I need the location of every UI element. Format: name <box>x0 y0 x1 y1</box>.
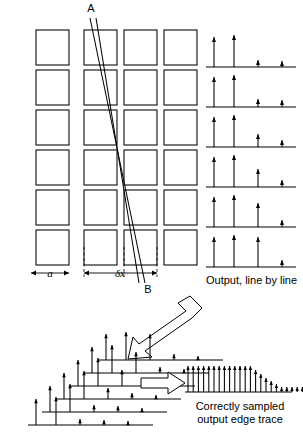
edge-trace-impulse-head <box>186 366 189 370</box>
detector-cell <box>84 70 117 105</box>
detector-cell <box>84 190 117 225</box>
edge-trace-impulse-head <box>192 366 195 370</box>
output-impulse-head <box>232 35 236 40</box>
stack-impulse-head <box>106 388 110 392</box>
stack-impulse-head <box>182 369 186 373</box>
output-impulse-head <box>256 237 260 242</box>
stack-impulse-head <box>76 360 80 364</box>
output-impulse-head <box>212 77 216 82</box>
edge-trace-impulse-head <box>212 366 215 370</box>
stack-impulse-head <box>62 373 66 377</box>
edge-trace-impulse-head <box>270 381 273 385</box>
output-impulse-head <box>280 61 284 66</box>
output-trace-row <box>206 75 296 107</box>
output-impulse-head <box>256 169 260 174</box>
detector-cell <box>164 190 197 225</box>
output-impulse-head <box>232 155 236 160</box>
correctly-sampled-output-edge-trace <box>185 366 303 392</box>
output-impulse-head <box>212 37 216 42</box>
output-impulse-head <box>256 134 260 139</box>
stack-impulse-head <box>120 370 124 374</box>
output-impulse-head <box>232 75 236 80</box>
edge-trace-impulse-head <box>275 384 278 388</box>
stack-impulse-head <box>196 356 200 360</box>
output-trace-row <box>206 35 296 67</box>
stack-impulse-head <box>110 345 114 349</box>
detector-cell <box>36 30 69 65</box>
edge-trace-impulse-head <box>197 366 200 370</box>
pitch-a-label: a <box>47 267 53 279</box>
point-a-label: A <box>87 2 95 14</box>
output-impulse-head <box>212 237 216 242</box>
output-impulse-head <box>280 140 284 145</box>
edge-trace-impulse-head <box>259 374 262 378</box>
stack-impulse-head <box>90 347 94 351</box>
output-impulse-head <box>212 157 216 162</box>
stack-impulse-head <box>78 419 82 423</box>
detector-cell <box>164 230 197 265</box>
stack-impulse-head <box>140 408 144 412</box>
edge-trace-impulse-head <box>290 387 293 391</box>
edge-trace-impulse-head <box>238 366 241 370</box>
stack-impulse-head <box>48 386 52 390</box>
output-trace-row <box>206 155 296 187</box>
stack-impulse-head <box>124 332 128 336</box>
detector-cell <box>124 110 157 145</box>
edge-trace-impulse-head <box>223 366 226 370</box>
edge-trace-impulse-head <box>218 366 221 370</box>
output-impulse-head <box>256 99 260 104</box>
stack-impulse-head <box>130 393 134 397</box>
edge-trace-caption-line1: Correctly sampled <box>196 400 285 412</box>
output-impulse-head <box>256 60 260 65</box>
output-line-by-line-caption: Output, line by line <box>206 274 297 286</box>
edge-trace-impulse-head <box>249 366 252 370</box>
edge-trace-impulse-head <box>207 366 210 370</box>
output-impulse-head <box>212 117 216 122</box>
arrow-stack-to-trace <box>141 372 185 394</box>
detector-cell <box>36 190 69 225</box>
detector-cell <box>84 150 117 185</box>
detector-cell <box>164 70 197 105</box>
stack-impulse-head <box>116 406 120 410</box>
edge-trace-impulse-head <box>296 387 299 391</box>
output-impulse-head <box>280 260 284 265</box>
stack-impulse-head <box>126 421 130 425</box>
edge-trace-impulse-head <box>264 378 267 382</box>
detector-cell <box>124 30 157 65</box>
sampled-edge-trace-figure: a δx A B Output, line by line Correctly … <box>0 0 303 436</box>
edge-trace-impulse-head <box>280 387 283 391</box>
stack-impulse-head <box>34 399 38 403</box>
output-impulse-head <box>212 197 216 202</box>
point-b-label: B <box>144 283 151 295</box>
stack-impulse-head <box>172 354 176 358</box>
stack-impulse-head <box>158 367 162 371</box>
detector-cell <box>124 70 157 105</box>
output-impulse-head <box>280 220 284 225</box>
stack-impulse-head <box>102 420 106 424</box>
detector-cell <box>36 70 69 105</box>
stacked-line-traces <box>28 332 223 425</box>
detector-cell <box>36 150 69 185</box>
output-impulse-head <box>280 100 284 105</box>
detector-cell <box>164 110 197 145</box>
output-trace-row <box>206 235 296 267</box>
edge-trace-caption-line2: output edge trace <box>197 413 283 425</box>
arrow-grid-to-stack <box>128 296 202 359</box>
edge-trace-impulse-head <box>285 387 288 391</box>
figure-root: a δx A B Output, line by line Correctly … <box>0 0 303 436</box>
stack-impulse-head <box>92 405 96 409</box>
edge-trace-impulse-head <box>244 366 247 370</box>
output-trace-row <box>206 195 296 227</box>
detector-cell <box>164 30 197 65</box>
edge-trace-impulse-head <box>233 366 236 370</box>
detector-cell <box>84 230 117 265</box>
stack-trace-row <box>28 397 153 425</box>
stack-impulse-head <box>104 334 108 338</box>
detector-cell <box>36 230 69 265</box>
detector-cell <box>124 150 157 185</box>
output-impulse-head <box>232 115 236 120</box>
stack-impulse-head <box>154 395 158 399</box>
detector-cell <box>36 110 69 145</box>
output-impulse-head <box>232 235 236 240</box>
edge-trace-impulse-head <box>254 370 257 374</box>
